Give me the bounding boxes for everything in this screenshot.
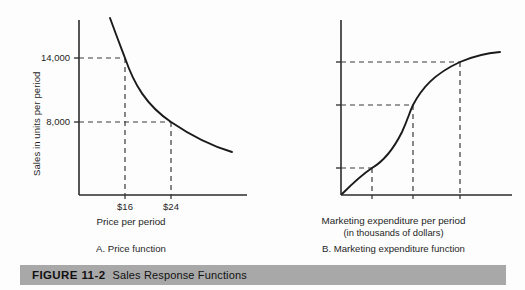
x-tick-label-16: $16 bbox=[105, 201, 145, 212]
chart-panel-marketing-expenditure-function: Sales in units per period 13,500 11,000 … bbox=[262, 0, 525, 260]
figure-page: Sales in units per period 14,000 8,000 $… bbox=[0, 0, 525, 290]
figure-caption-bar: FIGURE 11-2 Sales Response Functions bbox=[20, 265, 506, 285]
x-tick-label-24: $24 bbox=[151, 201, 191, 212]
x-axis-title-line2: (in thousands of dollars) bbox=[262, 227, 525, 238]
figure-number-label: FIGURE 11-2 bbox=[32, 269, 105, 281]
marketing-response-curve bbox=[342, 52, 500, 194]
chart-panel-price-function: Sales in units per period 14,000 8,000 $… bbox=[0, 0, 262, 260]
x-axis-title: Price per period bbox=[0, 216, 262, 227]
panel-b-subcaption: B. Marketing expenditure function bbox=[262, 243, 525, 254]
y-tick-label-8000: 8,000 bbox=[24, 116, 70, 127]
panel-a-subcaption: A. Price function bbox=[0, 243, 262, 254]
x-axis-title-line1: Marketing expenditure per period bbox=[262, 215, 525, 226]
figure-title: Sales Response Functions bbox=[112, 269, 246, 281]
y-tick-label-14000: 14,000 bbox=[24, 52, 70, 63]
